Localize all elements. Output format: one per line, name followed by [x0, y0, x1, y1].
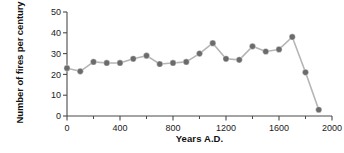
data-point: [196, 51, 202, 57]
data-point: [276, 46, 282, 52]
data-point: [289, 34, 295, 40]
chart-figure: Number of fires per century 010203040500…: [0, 0, 344, 153]
data-point: [143, 53, 149, 59]
data-point: [263, 48, 269, 54]
x-tick-label: 1600: [269, 123, 289, 133]
data-point: [170, 60, 176, 66]
data-point: [64, 65, 70, 71]
x-tick-label: 0: [64, 123, 69, 133]
data-point: [316, 107, 322, 113]
data-point: [183, 59, 189, 65]
data-point: [210, 40, 216, 46]
y-tick-label: 50: [51, 7, 61, 17]
data-point: [77, 68, 83, 74]
data-point: [104, 60, 110, 66]
data-point: [90, 59, 96, 65]
x-tick-label: 400: [112, 123, 127, 133]
data-point: [157, 61, 163, 67]
x-tick-label: 2000: [322, 123, 342, 133]
y-tick-label: 40: [51, 28, 61, 38]
data-point: [223, 56, 229, 62]
data-point: [236, 57, 242, 63]
x-axis-label: Years A.D.: [67, 133, 332, 144]
y-tick-label: 30: [51, 49, 61, 59]
data-point: [249, 43, 255, 49]
data-point: [130, 56, 136, 62]
x-tick-label: 800: [165, 123, 180, 133]
y-axis-ticks: 01020304050: [51, 7, 67, 121]
x-axis-ticks: 0400800120016002000: [64, 116, 342, 133]
y-tick-label: 0: [56, 111, 61, 121]
y-tick-label: 20: [51, 70, 61, 80]
x-tick-label: 1200: [216, 123, 236, 133]
data-point: [302, 69, 308, 75]
y-tick-label: 10: [51, 90, 61, 100]
data-point: [117, 60, 123, 66]
line-chart-plot: 010203040500400800120016002000: [0, 0, 344, 153]
